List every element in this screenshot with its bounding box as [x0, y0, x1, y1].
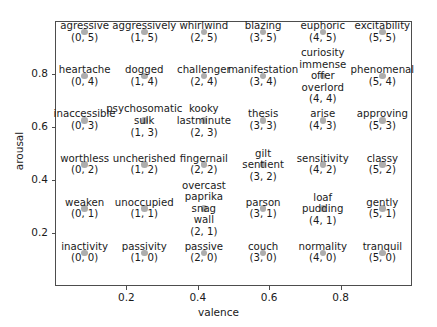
- scatter-chart-figure: 0.20.40.60.80.20.40.60.8 agressive(0, 5)…: [0, 0, 437, 327]
- data-point-marker: [141, 161, 148, 168]
- y-axis-tick-mark: [52, 180, 56, 181]
- y-axis-tick-label: 0.2: [15, 226, 48, 238]
- x-axis-tick-label: 0.4: [176, 291, 220, 303]
- data-point-marker: [81, 117, 88, 124]
- data-point-marker: [81, 161, 88, 168]
- data-point-marker: [379, 117, 386, 124]
- y-axis-tick-mark: [52, 74, 56, 75]
- data-point-marker: [141, 117, 148, 124]
- data-point-marker: [141, 250, 148, 257]
- x-axis-tick-label: 0.2: [104, 291, 148, 303]
- data-point-marker: [201, 161, 208, 168]
- x-axis-tick-mark: [269, 286, 270, 290]
- data-point-marker: [320, 250, 327, 257]
- x-axis-tick-mark: [126, 286, 127, 290]
- data-point-marker: [81, 205, 88, 212]
- data-point-marker: [379, 205, 386, 212]
- plot-area: [55, 21, 412, 286]
- y-axis-tick-mark: [52, 233, 56, 234]
- data-point-marker: [141, 29, 148, 36]
- data-point-marker: [201, 205, 208, 212]
- data-point-marker: [320, 205, 327, 212]
- y-axis-tick-mark: [52, 127, 56, 128]
- x-axis-tick-mark: [341, 286, 342, 290]
- data-point-marker: [141, 205, 148, 212]
- data-point-marker: [379, 29, 386, 36]
- data-point-marker: [201, 117, 208, 124]
- y-axis-tick-label: 0.8: [15, 67, 48, 79]
- data-point-marker: [320, 161, 327, 168]
- data-point-marker: [260, 117, 267, 124]
- data-point-marker: [379, 161, 386, 168]
- data-point-marker: [81, 250, 88, 257]
- x-axis-tick-label: 0.6: [247, 291, 291, 303]
- x-axis-tick-mark: [198, 286, 199, 290]
- x-axis-title: valence: [0, 306, 437, 318]
- x-axis-tick-label: 0.8: [319, 291, 363, 303]
- data-point-marker: [379, 73, 386, 80]
- y-axis-title: arousal: [13, 111, 25, 191]
- data-point-marker: [320, 117, 327, 124]
- data-point-marker: [141, 73, 148, 80]
- data-point-marker: [379, 250, 386, 257]
